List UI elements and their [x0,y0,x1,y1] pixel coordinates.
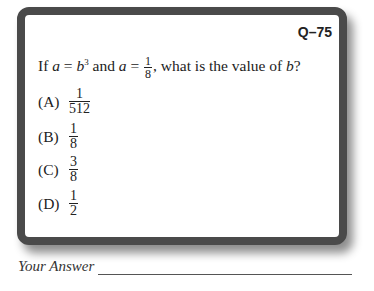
var-a: a [119,57,127,74]
equals: = [127,57,144,74]
denominator: 8 [69,170,78,184]
numerator: 1 [69,122,78,137]
choice-label: (B) [38,128,68,146]
question-card: Q–75 If a = b3 and a = 18, what is the v… [17,7,347,245]
answer-label: Your Answer [18,258,94,275]
numerator: 1 [69,87,90,102]
choice-c[interactable]: (C) 38 [38,155,79,184]
numerator: 3 [69,155,78,170]
choice-a[interactable]: (A) 1512 [38,87,91,116]
var-b: b [286,57,294,74]
question-id: Q–75 [298,24,332,40]
choice-label: (D) [38,195,68,213]
denominator: 2 [69,204,78,218]
fraction: 38 [69,155,78,184]
choice-label: (A) [38,93,68,111]
fraction: 18 [144,55,152,80]
var-a: a [52,57,60,74]
denominator: 512 [69,102,90,116]
question-mark: ? [294,57,301,74]
question-and: and [89,57,119,74]
choice-b[interactable]: (B) 18 [38,122,79,151]
choice-d[interactable]: (D) 12 [38,189,79,218]
fraction: 18 [69,122,78,151]
answer-field: Your Answer [18,258,352,275]
choice-label: (C) [38,161,68,179]
numerator: 1 [69,189,78,204]
equals: = [60,57,77,74]
question-prefix: If [38,57,52,74]
question-suffix: , what is the value of [153,57,286,74]
answer-line[interactable] [98,260,352,275]
fraction: 12 [69,189,78,218]
question-text: If a = b3 and a = 18, what is the value … [38,55,301,80]
denominator: 8 [144,68,152,80]
fraction: 1512 [69,87,90,116]
denominator: 8 [69,137,78,151]
